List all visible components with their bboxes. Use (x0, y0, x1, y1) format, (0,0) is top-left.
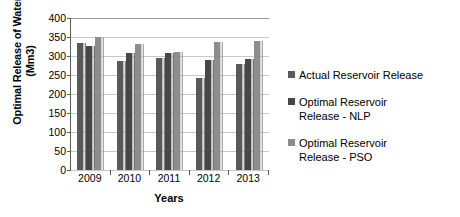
x-axis-tick-label: 2011 (149, 172, 189, 184)
bar[interactable] (236, 64, 245, 170)
y-axis-title: Optimal Release of Water(Mm3) (11, 0, 37, 141)
y-axis-tick-label: 250 (36, 70, 66, 80)
y-axis-tick-label: 200 (36, 89, 66, 99)
bar-fill (236, 64, 245, 170)
bar-fill (254, 41, 263, 170)
legend-color-swatch (288, 71, 295, 78)
plot-area (70, 18, 269, 171)
bar[interactable] (77, 43, 86, 170)
bar-group (111, 18, 151, 170)
bar-group (150, 18, 190, 170)
legend-item[interactable]: Optimal Reservoir Release - NLP (288, 95, 456, 123)
bar[interactable] (214, 42, 223, 170)
bar-fill (245, 59, 254, 170)
bar-fill (126, 53, 135, 170)
chart-legend: Actual Reservoir ReleaseOptimal Reservoi… (288, 68, 456, 177)
x-axis-tick-label: 2013 (228, 172, 268, 184)
bar-group (71, 18, 111, 170)
bar-fill (165, 53, 174, 170)
bar-fill (214, 42, 223, 170)
legend-color-swatch (288, 98, 295, 105)
y-axis-tick-label: 400 (36, 13, 66, 23)
legend-item-label: Actual Reservoir Release (299, 68, 423, 82)
bar[interactable] (205, 60, 214, 170)
bar-fill (196, 78, 205, 170)
x-axis-tick-label: 2010 (110, 172, 150, 184)
gridline (71, 170, 269, 171)
bar[interactable] (95, 37, 104, 170)
bar-fill (174, 52, 183, 170)
bar-chart-figure: Optimal Release of Water(Mm3) 4003503002… (0, 0, 460, 217)
bar[interactable] (156, 58, 165, 170)
legend-item[interactable]: Actual Reservoir Release (288, 68, 456, 82)
x-axis-tick-labels: 20092010201120122013 (70, 172, 268, 184)
bar[interactable] (135, 44, 144, 170)
bar-group (190, 18, 230, 170)
legend-item-label: Optimal Reservoir Release - PSO (299, 136, 387, 164)
bar-fill (117, 61, 126, 170)
x-axis-tick-label: 2009 (70, 172, 110, 184)
bar-fill (135, 44, 144, 170)
x-axis-tick-label: 2012 (189, 172, 229, 184)
y-axis-tick-label: 50 (36, 146, 66, 156)
y-axis-tick-label: 300 (36, 51, 66, 61)
bar[interactable] (126, 53, 135, 170)
y-axis-title-line1: Optimal Release of Water (11, 0, 23, 125)
y-axis-tick-labels: 400350300250200150100500 (36, 0, 66, 217)
x-axis-tick-mark (268, 170, 269, 175)
bar-groups (71, 18, 269, 170)
y-axis-tick-label: 350 (36, 32, 66, 42)
bar[interactable] (196, 78, 205, 170)
y-axis-tick-label: 0 (36, 165, 66, 175)
bar-group (229, 18, 269, 170)
y-axis-tick-label: 150 (36, 108, 66, 118)
x-axis-title: Years (70, 192, 268, 204)
legend-color-swatch (288, 139, 295, 146)
legend-item-label: Optimal Reservoir Release - NLP (299, 95, 387, 123)
bar-fill (77, 43, 86, 170)
bar[interactable] (245, 59, 254, 170)
bar[interactable] (86, 46, 95, 170)
y-axis-tick-mark (67, 170, 71, 171)
bar-fill (156, 58, 165, 170)
bar-fill (205, 60, 214, 170)
bar-fill (95, 37, 104, 170)
bar[interactable] (117, 61, 126, 170)
bar[interactable] (165, 53, 174, 170)
bar-fill (86, 46, 95, 170)
bar[interactable] (254, 41, 263, 170)
bar[interactable] (174, 52, 183, 170)
y-axis-title-line2: (Mm3) (24, 45, 36, 76)
y-axis-tick-label: 100 (36, 127, 66, 137)
legend-item[interactable]: Optimal Reservoir Release - PSO (288, 136, 456, 164)
